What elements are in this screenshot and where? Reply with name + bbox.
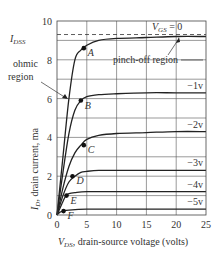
y-tick: 6 bbox=[47, 94, 52, 105]
ohmic-arrow bbox=[41, 82, 66, 98]
curve-label: −4v bbox=[187, 179, 203, 190]
curve-1v bbox=[57, 93, 206, 215]
operating-points: ABCDEF bbox=[61, 46, 95, 221]
curve-4v bbox=[57, 192, 206, 215]
y-tick: 8 bbox=[47, 55, 52, 66]
tick-labels: 05101520250246810 bbox=[42, 16, 211, 230]
point-label: F bbox=[67, 210, 75, 221]
point-label: C bbox=[88, 144, 95, 155]
curve-label: −2v bbox=[187, 119, 203, 130]
y-tick: 0 bbox=[47, 210, 52, 221]
point-label: B bbox=[85, 100, 91, 111]
curve-5v bbox=[57, 209, 206, 215]
jfet-characteristic-chart: 05101520250246810 −1v−2v−3v−4v−5v ABCDEF… bbox=[0, 0, 224, 259]
point-c bbox=[82, 143, 87, 148]
point-a bbox=[82, 46, 87, 51]
idss-label: IDSS bbox=[9, 33, 26, 46]
curve-label: −1v bbox=[187, 80, 203, 91]
point-label: E bbox=[70, 195, 77, 206]
x-tick: 25 bbox=[201, 219, 211, 230]
pinchoff-label: pinch-off region bbox=[113, 54, 178, 65]
point-d bbox=[70, 174, 75, 179]
x-tick: 0 bbox=[55, 219, 60, 230]
point-e bbox=[64, 193, 69, 198]
curve-label: −3v bbox=[187, 157, 203, 168]
x-tick: 10 bbox=[112, 219, 122, 230]
curve-label: −5v bbox=[187, 196, 203, 207]
y-axis-label: ID, drain current, ma bbox=[29, 127, 42, 211]
point-b bbox=[79, 98, 84, 103]
pinchoff-arrowhead bbox=[176, 37, 180, 43]
y-tick: 4 bbox=[47, 132, 52, 143]
ohmic-arrowhead bbox=[62, 94, 68, 99]
y-tick: 10 bbox=[42, 16, 52, 27]
point-f bbox=[61, 209, 66, 214]
x-tick: 5 bbox=[84, 219, 89, 230]
x-tick: 20 bbox=[171, 219, 181, 230]
vgs-zero-label: VGS = 0 bbox=[152, 21, 182, 34]
point-label: A bbox=[87, 47, 95, 58]
point-label: D bbox=[75, 175, 84, 186]
ohmic-label-line2: region bbox=[8, 71, 34, 82]
x-tick: 15 bbox=[141, 219, 151, 230]
x-axis-label: VDS, drain-source voltage (volts) bbox=[58, 236, 188, 249]
y-tick: 2 bbox=[47, 171, 52, 182]
ohmic-label-line1: ohmic bbox=[13, 58, 39, 69]
